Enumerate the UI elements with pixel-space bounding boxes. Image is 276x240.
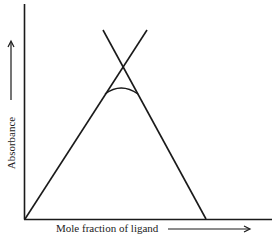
falling-line	[103, 30, 206, 219]
x-axis-label: Mole fraction of ligand	[56, 222, 158, 234]
rising-line	[25, 30, 147, 219]
y-axis-label: Absorbance	[5, 112, 17, 174]
job-plot-chart	[0, 0, 276, 240]
observed-curve	[105, 88, 138, 94]
